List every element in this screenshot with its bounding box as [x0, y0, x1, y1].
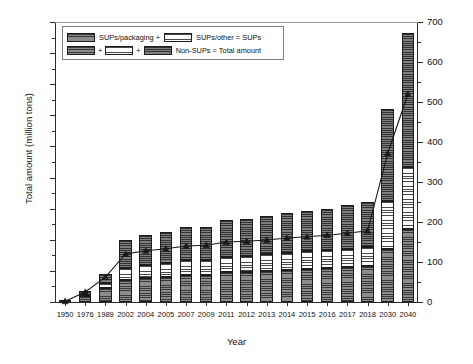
bar-segment-non-sups-1976	[79, 291, 92, 294]
bar-2014	[281, 22, 294, 302]
y-right-tick-700	[418, 22, 423, 23]
y-left-tick-700	[50, 84, 55, 85]
bar-1989	[99, 22, 112, 302]
legend-label-sups-other: SUPs/other = SUPs	[196, 33, 261, 42]
y-axis-left-title: Total amount (million tons)	[23, 59, 34, 239]
bar-segment-sups-other-2013	[260, 254, 273, 271]
bar-segment-non-sups-2011	[220, 220, 233, 256]
x-tick-2011	[226, 302, 227, 306]
y-right-tick-350	[418, 162, 421, 163]
bar-segment-sups-packaging-2040	[402, 229, 415, 302]
bar-segment-non-sups-2002	[119, 240, 132, 267]
bar-segment-non-sups-2017	[341, 205, 354, 248]
y-left-tick-850	[52, 38, 55, 39]
x-tick-2013	[267, 302, 268, 306]
legend-label-sups-packaging: SUPs/packaging +	[99, 33, 160, 42]
bar-segment-sups-packaging-2007	[180, 275, 193, 302]
bar-segment-sups-other-2002	[119, 268, 132, 280]
bar-2009	[200, 22, 213, 302]
bar-segment-non-sups-2018	[361, 202, 374, 246]
bar-segment-sups-other-2014	[281, 253, 294, 270]
y-right-tick-450	[418, 122, 421, 123]
bar-segment-sups-other-1989	[99, 283, 112, 288]
bar-segment-non-sups-2013	[260, 216, 273, 254]
bar-segment-sups-packaging-2013	[260, 271, 273, 302]
y-right-tick-50	[418, 282, 421, 283]
bar-segment-sups-packaging-1976	[79, 296, 92, 302]
bar-2040	[402, 22, 415, 302]
y-left-tick-450	[52, 162, 55, 163]
bar-segment-sups-packaging-2011	[220, 272, 233, 302]
bar-2030	[381, 22, 394, 302]
x-tick-2014	[287, 302, 288, 306]
bar-segment-non-sups-2040	[402, 33, 415, 167]
y-right-tick-300	[418, 182, 423, 183]
y-left-tick-100	[50, 271, 55, 272]
y-left-tick-750	[52, 69, 55, 70]
y-right-tick-550	[418, 82, 421, 83]
y-left-tick-300	[50, 209, 55, 210]
y-right-tick-label-300: 300	[427, 176, 443, 187]
x-tick-2017	[347, 302, 348, 306]
bar-segment-sups-packaging-2017	[341, 267, 354, 302]
hatch-dark-swatch-icon	[67, 33, 95, 42]
chart-legend: SUPs/packaging + SUPs/other = SUPs + + N…	[62, 26, 284, 60]
bar-segment-sups-other-2005	[160, 263, 173, 277]
hatch-light-swatch-icon	[164, 33, 192, 42]
bar-2007	[180, 22, 193, 302]
bar-segment-sups-other-2009	[200, 260, 213, 275]
x-tick-2016	[327, 302, 328, 306]
y-right-tick-label-700: 700	[427, 16, 443, 27]
y-left-tick-150	[52, 255, 55, 256]
bar-segment-sups-other-2030	[381, 201, 394, 249]
bar-segment-sups-other-2004	[139, 265, 152, 278]
bar-segment-sups-packaging-2012	[240, 272, 253, 302]
bar-2013	[260, 22, 273, 302]
bar-segment-sups-other-2040	[402, 167, 415, 229]
y-right-tick-label-500: 500	[427, 96, 443, 107]
bar-2017	[341, 22, 354, 302]
bar-2005	[160, 22, 173, 302]
bar-segment-sups-other-2015	[301, 251, 314, 269]
x-tick-2040	[408, 302, 409, 306]
bar-2018	[361, 22, 374, 302]
bar-segment-non-sups-2004	[139, 235, 152, 265]
bar-segment-sups-other-2016	[321, 250, 334, 268]
bar-segment-sups-other-2017	[341, 249, 354, 268]
legend-plus-a: +	[98, 46, 102, 55]
bar-segment-non-sups-2030	[381, 109, 394, 201]
bar-2004	[139, 22, 152, 302]
y-right-tick-600	[418, 62, 423, 63]
y-axis-left-line	[55, 22, 56, 302]
bar-segment-non-sups-1950	[59, 300, 72, 302]
y-left-tick-800	[50, 53, 55, 54]
y-right-tick-250	[418, 202, 421, 203]
y-left-tick-200	[50, 240, 55, 241]
x-tick-1976	[85, 302, 86, 306]
y-left-tick-50	[52, 286, 55, 287]
bar-segment-sups-packaging-2030	[381, 249, 394, 302]
bar-2002	[119, 22, 132, 302]
legend-plus-b: +	[136, 46, 140, 55]
y-left-tick-550	[52, 131, 55, 132]
bar-2016	[321, 22, 334, 302]
y-right-tick-650	[418, 42, 421, 43]
y-left-tick-250	[52, 224, 55, 225]
bar-segment-sups-packaging-2004	[139, 278, 152, 302]
x-tick-2007	[186, 302, 187, 306]
y-left-tick-900	[50, 22, 55, 23]
y-right-tick-200	[418, 222, 423, 223]
chart-figure: Total amount (million tons) Waste plasti…	[0, 0, 473, 364]
y-right-tick-label-200: 200	[427, 216, 443, 227]
bar-segment-sups-other-2011	[220, 257, 233, 273]
x-tick-2004	[146, 302, 147, 306]
y-right-tick-label-600: 600	[427, 56, 443, 67]
x-tick-2018	[368, 302, 369, 306]
y-left-tick-400	[50, 178, 55, 179]
bar-segment-sups-packaging-2009	[200, 275, 213, 302]
legend-row-total: + + Non-SUPs = Total amount	[67, 44, 279, 57]
y-left-tick-600	[50, 115, 55, 116]
x-axis-label-2040: 2040	[394, 310, 422, 319]
hatch-dark-swatch-icon-2	[67, 46, 95, 55]
y-right-tick-400	[418, 142, 423, 143]
